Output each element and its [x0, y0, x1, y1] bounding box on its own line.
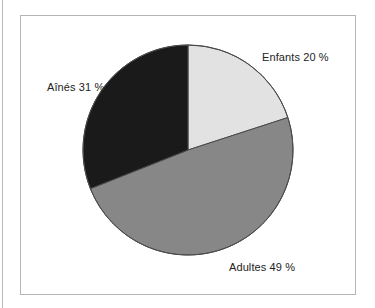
page: Enfants 20 % Adultes 49 % Aînés 31 %: [0, 0, 375, 308]
slice-label-aines: Aînés 31 %: [47, 81, 104, 94]
slice-label-enfants: Enfants 20 %: [262, 51, 329, 64]
pie-slice-group: [83, 45, 293, 255]
pie-chart: Enfants 20 % Adultes 49 % Aînés 31 %: [0, 0, 375, 308]
pie-chart-svg: [0, 0, 375, 308]
slice-label-adultes: Adultes 49 %: [229, 261, 295, 274]
